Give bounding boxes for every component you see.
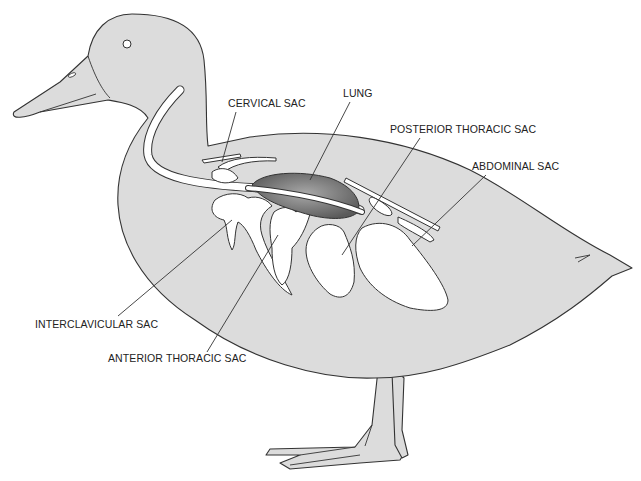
- duck-legs: [266, 370, 408, 469]
- eye: [123, 40, 131, 48]
- label-abdominal-sac: ABDOMINAL SAC: [472, 160, 560, 172]
- duck-air-sac-diagram: CERVICAL SAC LUNG POSTERIOR THORACIC SAC…: [0, 0, 641, 481]
- label-cervical-sac: CERVICAL SAC: [228, 97, 306, 109]
- label-posterior-thoracic-sac: POSTERIOR THORACIC SAC: [390, 123, 536, 135]
- label-anterior-thoracic-sac: ANTERIOR THORACIC SAC: [108, 352, 247, 364]
- label-lung: LUNG: [343, 87, 373, 99]
- label-interclavicular-sac: INTERCLAVICULAR SAC: [35, 318, 158, 330]
